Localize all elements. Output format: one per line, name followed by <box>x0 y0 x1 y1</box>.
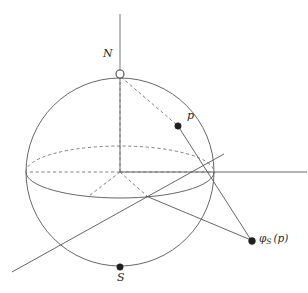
radius-center-to-front-left-dashed <box>89 172 120 196</box>
label-north-pole: N <box>103 48 113 59</box>
south-pole-marker-icon <box>117 264 123 270</box>
radius-center-to-front-right-dashed <box>120 172 147 196</box>
point-markers-group <box>116 70 255 270</box>
ray-equator-to-projection-solid <box>146 196 251 240</box>
radial-dashed-group <box>27 76 213 196</box>
projection-point-marker-icon <box>249 238 256 245</box>
equator-front-solid <box>26 172 214 198</box>
ray-north-to-p-dashed <box>121 77 177 125</box>
label-projection-subscript: S <box>266 237 271 246</box>
figure-canvas: N S p φS(p) <box>0 0 308 293</box>
ray-p-to-projection-solid <box>178 126 251 240</box>
label-projection-point: φS(p) <box>259 233 288 246</box>
label-point-p: p <box>187 110 194 121</box>
projection-ray-group <box>121 77 251 240</box>
label-south-pole: S <box>117 272 125 283</box>
stereographic-projection-diagram <box>0 0 308 293</box>
point-p-marker-icon <box>175 123 181 129</box>
north-pole-marker-icon <box>116 70 124 78</box>
label-projection-argument: (p) <box>274 232 289 244</box>
